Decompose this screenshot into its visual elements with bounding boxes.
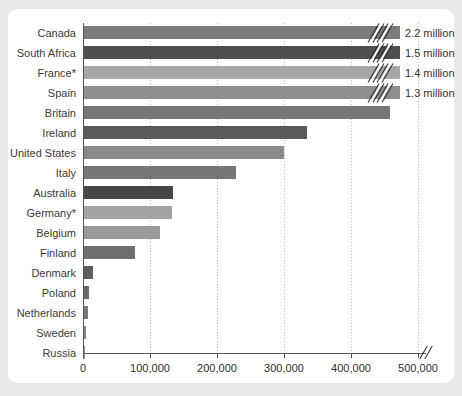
- category-label: Finland: [8, 243, 76, 263]
- bar-row: South Africa 1.5 million: [8, 43, 454, 63]
- y-axis-line: [83, 23, 84, 353]
- bar-ireland[interactable]: [83, 126, 307, 139]
- category-label: Denmark: [8, 263, 76, 283]
- category-label: Poland: [8, 283, 76, 303]
- x-tick-label: 100,000: [115, 362, 185, 374]
- x-tick-label: 400,000: [316, 362, 386, 374]
- x-tick-100000: [150, 353, 151, 358]
- bar-row: Finland: [8, 243, 454, 263]
- x-tick-label: 200,000: [182, 362, 252, 374]
- x-tick-200000: [217, 353, 218, 358]
- category-label: Britain: [8, 103, 76, 123]
- x-axis-line: [83, 353, 426, 354]
- bar-belgium[interactable]: [83, 226, 160, 239]
- bar-value-label: 1.5 million: [405, 43, 455, 63]
- category-label: France*: [8, 63, 76, 83]
- bar-row: France* 1.4 million: [8, 63, 454, 83]
- bar-chart: Canada 2.2 million South Africa 1.5 mill…: [8, 9, 454, 383]
- category-label: Canada: [8, 23, 76, 43]
- category-label: Sweden: [8, 323, 76, 343]
- x-tick-300000: [284, 353, 285, 358]
- category-label: Russia: [8, 343, 76, 363]
- x-tick-label: 0: [53, 362, 113, 374]
- bar-row: Denmark: [8, 263, 454, 283]
- category-label: Ireland: [8, 123, 76, 143]
- bar-denmark[interactable]: [83, 266, 93, 279]
- x-tick-label: 500,000: [383, 362, 453, 374]
- bar-row: Italy: [8, 163, 454, 183]
- x-tick-label: 300,000: [249, 362, 319, 374]
- bar-row: Netherlands: [8, 303, 454, 323]
- x-tick-400000: [351, 353, 352, 358]
- category-label: Belgium: [8, 223, 76, 243]
- bar-britain[interactable]: [83, 106, 390, 119]
- bar-row: Belgium: [8, 223, 454, 243]
- bar-united-states[interactable]: [83, 146, 284, 159]
- bar-south-africa[interactable]: [83, 46, 400, 59]
- bar-row: Britain: [8, 103, 454, 123]
- bar-france[interactable]: [83, 66, 400, 79]
- bar-row: Spain 1.3 million: [8, 83, 454, 103]
- bar-row: Sweden: [8, 323, 454, 343]
- bar-row: Australia: [8, 183, 454, 203]
- x-tick-0: [83, 353, 84, 358]
- bar-germany[interactable]: [83, 206, 172, 219]
- category-label: Germany*: [8, 203, 76, 223]
- x-axis-break-mark: [421, 346, 441, 360]
- bar-spain[interactable]: [83, 86, 400, 99]
- category-label: Italy: [8, 163, 76, 183]
- bar-australia[interactable]: [83, 186, 173, 199]
- bar-row: Ireland: [8, 123, 454, 143]
- category-label: Australia: [8, 183, 76, 203]
- category-label: United States: [8, 143, 76, 163]
- category-label: Spain: [8, 83, 76, 103]
- bar-value-label: 1.3 million: [405, 83, 455, 103]
- bar-italy[interactable]: [83, 166, 236, 179]
- bar-row: United States: [8, 143, 454, 163]
- bar-value-label: 2.2 million: [405, 23, 455, 43]
- bar-value-label: 1.4 million: [405, 63, 455, 83]
- bar-row: Poland: [8, 283, 454, 303]
- bar-finland[interactable]: [83, 246, 135, 259]
- chart-card: Canada 2.2 million South Africa 1.5 mill…: [8, 9, 454, 383]
- category-label: South Africa: [8, 43, 76, 63]
- bar-row: Canada 2.2 million: [8, 23, 454, 43]
- bar-canada[interactable]: [83, 26, 400, 39]
- category-label: Netherlands: [8, 303, 76, 323]
- bar-row: Germany*: [8, 203, 454, 223]
